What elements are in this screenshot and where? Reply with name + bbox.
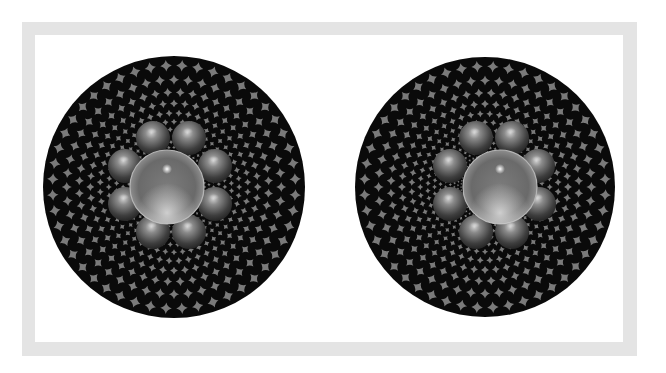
- small-sphere: [433, 187, 467, 221]
- center-glass-sphere: [130, 150, 204, 224]
- small-sphere: [459, 121, 493, 155]
- small-sphere: [433, 149, 467, 183]
- right-panel: [342, 44, 628, 330]
- center-glass-sphere: [463, 150, 537, 224]
- optical-illusion-image: [0, 0, 666, 373]
- left-panel: [30, 43, 318, 331]
- small-sphere: [172, 121, 206, 155]
